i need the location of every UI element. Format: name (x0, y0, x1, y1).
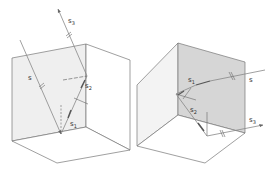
right-corner-reflector: s s1 s2 s3 (137, 43, 265, 163)
corner-reflector-diagram: s s1 s2 s3 s s1 s2 s3 (0, 0, 275, 174)
left-corner-reflector: s s1 s2 s3 (12, 9, 130, 163)
right-label-s: s (249, 76, 253, 84)
left-label-s: s (28, 74, 32, 82)
right-label-s3: s3 (249, 116, 256, 125)
left-label-s3: s3 (68, 17, 75, 26)
